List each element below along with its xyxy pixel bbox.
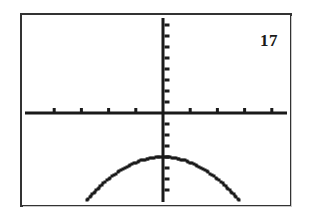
plot-area [22, 15, 290, 205]
y-axis-ticks [165, 24, 170, 192]
problem-number-label: 17 [260, 32, 278, 49]
screenshot-root: 17 [0, 0, 310, 222]
parabola-graph [22, 15, 290, 205]
graphing-calculator-screen: 17 [20, 13, 292, 207]
axes-group [25, 18, 287, 202]
